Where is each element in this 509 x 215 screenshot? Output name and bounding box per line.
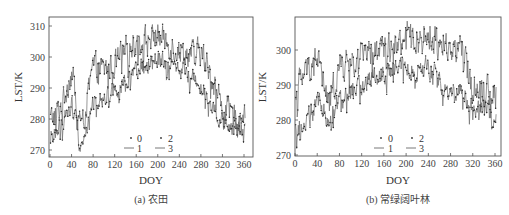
x-tick-label: 200 [399,158,414,169]
panel-a-legend: 0 1 2 3 [124,133,173,154]
panel-a-series [50,24,246,152]
panel-b-caption: (b) 常绿阔叶林 [366,193,430,206]
x-tick-label: 120 [107,159,122,170]
x-tick-label: 240 [421,158,436,169]
x-tick-label: 240 [172,159,187,170]
series-1-line [51,25,246,138]
legend-label-3: 3 [419,143,424,154]
y-tick-label: 300 [30,52,45,63]
legend-dot-marker-2 [411,137,413,139]
y-tick-label: 270 [276,150,291,161]
legend-dot-marker-0 [130,137,132,139]
x-tick-label: 320 [465,158,480,169]
x-tick-label: 200 [150,159,165,170]
panel-a-x-axis-title: DOY [139,174,163,186]
legend-label-3: 3 [168,143,173,154]
x-tick-label: 360 [237,159,252,170]
y-tick-label: 300 [276,45,291,56]
panel-a-x-axis: 04080120160200240280320360 [48,154,252,170]
x-tick-label: 80 [334,158,344,169]
x-tick-label: 360 [488,158,503,169]
x-tick-label: 280 [443,158,458,169]
series-3-line [296,57,497,148]
x-tick-label: 40 [312,158,322,169]
x-tick-label: 160 [129,159,144,170]
panel-a-plot-frame [49,17,253,157]
x-tick-label: 0 [293,158,298,169]
panel-b-x-axis-title: DOY [386,174,410,186]
legend-label-1: 1 [388,143,393,154]
panel-b-y-axis-title: LST/K [256,72,268,103]
panel-b-series [295,21,497,148]
x-tick-label: 280 [193,159,208,170]
panel-b-chart: 04080120160200240280320360 270280290300 … [256,17,503,206]
x-tick-label: 80 [88,159,98,170]
x-tick-label: 40 [67,159,77,170]
panel-a-y-axis-title: LST/K [12,72,24,103]
legend-dot-marker-2 [160,137,162,139]
figure: 04080120160200240280320360 2702802903003… [0,0,509,215]
legend-label-1: 1 [137,143,142,154]
legend-dot-marker-0 [380,137,382,139]
y-tick-label: 290 [276,80,291,91]
x-tick-label: 320 [215,159,230,170]
y-tick-label: 280 [276,115,291,126]
x-tick-label: 0 [48,159,53,170]
panel-b-x-axis: 04080120160200240280320360 [293,153,503,169]
panel-a-chart: 04080120160200240280320360 2702802903003… [12,17,253,206]
panel-b-legend: 0 1 2 3 [374,133,424,154]
y-tick-label: 280 [30,114,45,125]
y-tick-label: 310 [30,21,45,32]
panel-a-caption: (a) 农田 [134,193,168,206]
x-tick-label: 160 [376,158,391,169]
y-tick-label: 290 [30,83,45,94]
x-tick-label: 120 [354,158,369,169]
y-tick-label: 270 [30,145,45,156]
